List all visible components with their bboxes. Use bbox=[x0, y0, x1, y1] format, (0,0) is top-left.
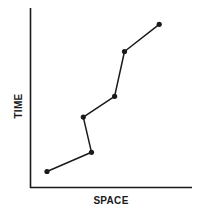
series-line bbox=[47, 24, 159, 171]
data-point-marker bbox=[44, 169, 49, 174]
x-axis-label: SPACE bbox=[93, 195, 128, 206]
data-point-marker bbox=[89, 150, 94, 155]
data-point-marker bbox=[81, 115, 86, 120]
space-time-chart: SPACE TIME bbox=[0, 0, 199, 213]
data-point-marker bbox=[122, 49, 127, 54]
data-point-marker bbox=[157, 22, 162, 27]
plot-area bbox=[44, 22, 161, 174]
data-point-marker bbox=[112, 94, 117, 99]
y-axis-label: TIME bbox=[13, 93, 24, 118]
